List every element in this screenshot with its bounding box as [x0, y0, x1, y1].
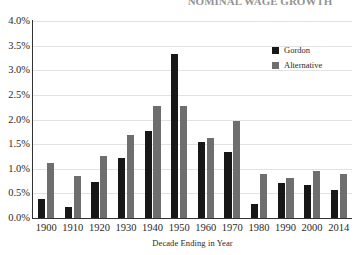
bar-group: [224, 21, 240, 218]
bar-alternative-1960: [207, 138, 214, 218]
bar-alternative-2014: [340, 174, 347, 218]
y-axis-tick-labels: 0.0%0.5%1.0%1.5%2.0%2.5%3.0%3.5%4.0%: [0, 0, 30, 255]
y-tick-label: 0.0%: [0, 213, 30, 224]
bar-group: [38, 21, 54, 218]
bar-group: [118, 21, 134, 218]
bar-group: [65, 21, 81, 218]
bar-gordon-1910: [65, 207, 72, 218]
bar-group: [171, 21, 187, 218]
bar-alternative-1910: [74, 176, 81, 218]
x-tick-label: 1950: [166, 221, 193, 234]
y-tick-label: 3.0%: [0, 65, 30, 76]
bar-alternative-1940: [153, 106, 160, 218]
y-tick-label: 1.0%: [0, 164, 30, 175]
y-tick-label: 2.0%: [0, 115, 30, 126]
chart-legend: GordonAlternative: [272, 45, 356, 75]
bar-alternative-1900: [47, 163, 54, 218]
legend-entry: Alternative: [272, 60, 356, 71]
legend-label: Gordon: [284, 46, 310, 55]
bar-gordon-1900: [38, 199, 45, 218]
x-axis-title: Decade Ending in Year: [33, 238, 352, 248]
x-tick-label: 1920: [86, 221, 113, 234]
bar-gordon-1960: [198, 142, 205, 218]
bar-gordon-1920: [91, 182, 98, 218]
legend-swatch-icon: [272, 62, 279, 69]
bar-group: [251, 21, 267, 218]
bar-alternative-2000: [313, 171, 320, 218]
bar-gordon-1950: [171, 54, 178, 218]
bar-group: [145, 21, 161, 218]
chart-title: NOMINAL WAGE GROWTH: [180, 0, 340, 7]
x-tick-label: 1980: [246, 221, 273, 234]
bar-group: [198, 21, 214, 218]
x-tick-label: 1960: [193, 221, 220, 234]
bar-alternative-1970: [233, 121, 240, 219]
bar-gordon-2000: [304, 185, 311, 218]
y-tick-label: 0.5%: [0, 188, 30, 199]
x-tick-label: 1910: [60, 221, 87, 234]
y-tick-label: 2.5%: [0, 90, 30, 101]
y-tick-label: 3.5%: [0, 41, 30, 52]
bar-gordon-1940: [145, 131, 152, 218]
bar-gordon-2014: [331, 190, 338, 218]
y-tick-label: 1.5%: [0, 139, 30, 150]
chart-figure: NOMINAL WAGE GROWTH 0.0%0.5%1.0%1.5%2.0%…: [0, 0, 357, 255]
legend-swatch-icon: [272, 47, 279, 54]
x-tick-label: 2000: [299, 221, 326, 234]
x-tick-label: 1900: [33, 221, 60, 234]
x-tick-label: 2014: [325, 221, 352, 234]
bar-group: [91, 21, 107, 218]
bar-alternative-1950: [180, 106, 187, 218]
bar-alternative-1980: [260, 174, 267, 218]
x-tick-label: 1970: [219, 221, 246, 234]
x-axis-tick-labels: 1900191019201930194019501960197019801990…: [33, 221, 352, 237]
bar-gordon-1980: [251, 204, 258, 218]
x-axis-line: [33, 218, 352, 219]
legend-label: Alternative: [284, 61, 322, 70]
bar-alternative-1990: [286, 178, 293, 218]
bar-gordon-1970: [224, 152, 231, 218]
y-tick-label: 4.0%: [0, 16, 30, 27]
bar-gordon-1990: [278, 183, 285, 218]
x-tick-label: 1930: [113, 221, 140, 234]
x-tick-label: 1990: [272, 221, 299, 234]
bar-alternative-1930: [127, 135, 134, 218]
bar-gordon-1930: [118, 158, 125, 218]
bar-alternative-1920: [100, 156, 107, 218]
legend-entry: Gordon: [272, 45, 356, 56]
x-tick-label: 1940: [139, 221, 166, 234]
